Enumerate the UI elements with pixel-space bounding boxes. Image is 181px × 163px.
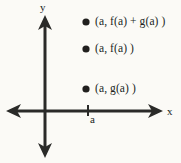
coordinate-plane-figure: (a, f(a) + g(a) ) (a, f(a) ) (a, g(a) ) … (0, 0, 181, 163)
point-label-g: (a, g(a) ) (95, 83, 136, 95)
point-dot-sum (82, 18, 89, 25)
y-axis-label: y (40, 2, 46, 13)
x-axis-label: x (167, 106, 173, 117)
x-axis-tick-label-a: a (90, 114, 95, 125)
point-dot-f (82, 45, 89, 52)
point-label-sum: (a, f(a) + g(a) ) (95, 16, 165, 28)
point-dot-g (82, 85, 89, 92)
point-label-f: (a, f(a) ) (95, 43, 134, 55)
